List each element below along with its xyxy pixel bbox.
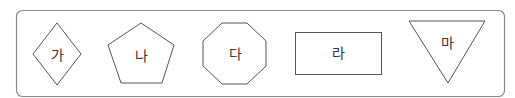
octagon-label: 다 — [229, 47, 242, 61]
outer-frame — [17, 11, 505, 97]
pentagon-label: 나 — [135, 49, 148, 63]
diamond-label: 가 — [51, 48, 64, 62]
inverted-triangle-label: 마 — [441, 36, 454, 50]
rectangle-label: 라 — [332, 46, 345, 60]
shapes-diagram — [0, 0, 515, 98]
